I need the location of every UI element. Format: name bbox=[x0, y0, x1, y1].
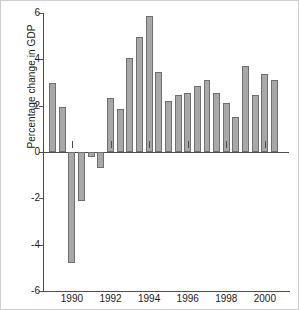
y-tick-label: 2 bbox=[34, 100, 40, 111]
y-tick-label: -2 bbox=[31, 192, 40, 203]
bar bbox=[146, 16, 153, 152]
x-tick-mark bbox=[265, 141, 266, 148]
y-tick-label: 6 bbox=[34, 7, 40, 18]
x-tick-label: 2000 bbox=[254, 293, 276, 304]
bar bbox=[126, 58, 133, 152]
y-axis-title: Percentage change in GDP bbox=[26, 0, 37, 187]
x-tick-mark bbox=[226, 141, 227, 148]
bar bbox=[271, 80, 278, 152]
bar bbox=[194, 86, 201, 152]
x-tick-label: 1998 bbox=[215, 293, 237, 304]
bar bbox=[213, 93, 220, 152]
bar bbox=[155, 72, 162, 152]
x-tick-label: 1996 bbox=[177, 293, 199, 304]
bar bbox=[49, 83, 56, 153]
x-tick-mark bbox=[188, 141, 189, 148]
bar bbox=[136, 37, 143, 152]
bar bbox=[68, 152, 75, 263]
y-tick-label: 4 bbox=[34, 53, 40, 64]
bar bbox=[59, 107, 66, 152]
bar bbox=[88, 152, 95, 157]
bar bbox=[117, 109, 124, 152]
chart-figure: Percentage change in GDP -6-4-20246 1990… bbox=[0, 0, 299, 310]
x-tick-label: 1990 bbox=[61, 293, 83, 304]
x-tick-mark bbox=[72, 141, 73, 148]
y-tick-label: -4 bbox=[31, 239, 40, 250]
bar bbox=[97, 152, 104, 168]
bar bbox=[252, 95, 259, 152]
bar bbox=[78, 152, 85, 201]
bar bbox=[175, 95, 182, 152]
y-tick-label: -6 bbox=[31, 285, 40, 296]
bar bbox=[165, 101, 172, 152]
x-tick-mark bbox=[149, 141, 150, 148]
y-tick-label: 0 bbox=[34, 146, 40, 157]
bar bbox=[204, 80, 211, 152]
bar bbox=[232, 117, 239, 152]
x-tick-mark bbox=[111, 141, 112, 148]
x-tick-label: 1994 bbox=[138, 293, 160, 304]
x-axis-line bbox=[43, 291, 290, 292]
bar bbox=[242, 66, 249, 152]
x-tick-label: 1992 bbox=[99, 293, 121, 304]
plot-area: -6-4-20246 bbox=[43, 13, 289, 291]
